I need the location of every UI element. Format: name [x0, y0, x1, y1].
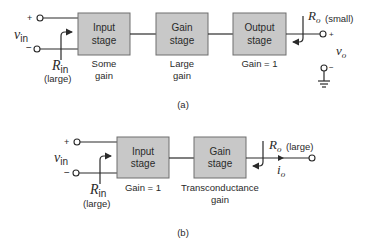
rin-label: Rin [89, 182, 106, 199]
input-stage-block-a: Input stage [78, 13, 130, 55]
output-stage-block-a: Output stage [233, 13, 286, 55]
vo-label: vo [336, 43, 347, 60]
output-stage-note: Gain = 1 [241, 58, 277, 69]
amplifier-block-diagrams: + − vin Rin (large) Input stage Some gai… [0, 0, 366, 247]
gain-stage-note-2: gain [173, 70, 191, 81]
input-stage-note-1: Some [92, 58, 117, 69]
plus-sign: + [64, 137, 69, 147]
svg-text:Input: Input [93, 22, 115, 33]
gain-stage-note-1: Transconductance [181, 182, 259, 193]
svg-text:stage: stage [247, 35, 272, 46]
svg-text:stage: stage [170, 35, 195, 46]
ro-label: Ro [307, 8, 321, 25]
input-terminals-a: + − [26, 13, 78, 53]
vin-label: vin [14, 27, 28, 44]
input-minus-terminal [34, 46, 40, 52]
ro-arrow-icon [293, 16, 303, 42]
svg-text:Gain: Gain [209, 146, 230, 157]
output-plus-sign: + [329, 30, 334, 39]
ground-icon [318, 71, 330, 87]
plus-sign: + [27, 13, 32, 23]
gain-stage-note-2: gain [211, 194, 229, 205]
io-arrow-icon [278, 155, 284, 161]
gain-stage-block-b: Gain stage [194, 137, 246, 178]
svg-text:stage: stage [92, 35, 117, 46]
caption-b: (b) [177, 227, 189, 238]
gain-stage-note-1: Large [170, 58, 194, 69]
caption-a: (a) [177, 99, 189, 110]
rin-arrow-icon [61, 32, 72, 60]
input-stage-note: Gain = 1 [125, 182, 161, 193]
output-minus-terminal [321, 65, 327, 71]
input-plus-terminal [37, 15, 43, 21]
vin-label: vin [54, 150, 68, 167]
ro-note: (small) [325, 13, 354, 24]
output-minus-sign: − [329, 63, 334, 72]
ro-note: (large) [286, 141, 313, 152]
output-plus-terminal [320, 31, 326, 37]
input-stage-block-b: Input stage [117, 137, 169, 178]
rin-note: (large) [83, 198, 110, 209]
svg-text:Gain: Gain [171, 22, 192, 33]
minus-sign: − [64, 167, 70, 178]
input-minus-terminal [73, 170, 79, 176]
rin-note: (large) [44, 73, 71, 84]
diagram-b: + − vin Rin (large) Input stage Gain = 1… [54, 137, 315, 238]
input-stage-note-2: gain [95, 70, 113, 81]
svg-text:Input: Input [132, 146, 154, 157]
ro-label: Ro [268, 137, 282, 154]
svg-text:stage: stage [208, 158, 233, 169]
output-terminal [309, 155, 315, 161]
io-label: io [277, 162, 286, 179]
input-plus-terminal [74, 139, 80, 145]
ro-arrow-icon [253, 141, 263, 166]
gain-stage-block-a: Gain stage [156, 13, 208, 55]
svg-text:Output: Output [244, 22, 274, 33]
diagram-a: + − vin Rin (large) Input stage Some gai… [14, 8, 354, 110]
svg-text:stage: stage [131, 158, 156, 169]
rin-arrow-icon [100, 156, 111, 184]
